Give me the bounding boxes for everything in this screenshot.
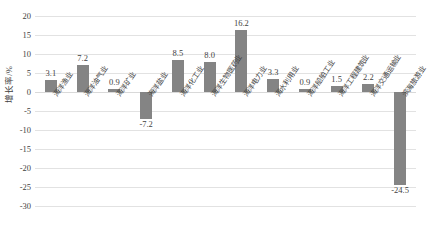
y-axis-tick-label: -30: [20, 202, 31, 211]
y-axis-tick-label: -15: [20, 145, 31, 154]
y-axis-tick-label: -5: [24, 107, 31, 116]
bar-slot: -7.2: [130, 16, 162, 206]
y-axis-tick-label: -20: [20, 164, 31, 173]
bar-value-label: -7.2: [139, 120, 152, 129]
bar-value-label: -24.5: [391, 186, 409, 195]
bar-slot: 7.2: [67, 16, 99, 206]
bar[interactable]: [394, 92, 406, 185]
bar-value-label: 2.2: [363, 73, 374, 82]
bar-slot: 0.9: [99, 16, 131, 206]
bar-slot: 3.1: [35, 16, 67, 206]
y-axis-title-text: 增长率/%: [5, 40, 14, 130]
bar-value-label: 0.9: [300, 78, 311, 87]
bar-slot: -24.5: [384, 16, 416, 206]
plot-area: 20151050-5-10-15-20-25-30 3.17.20.9-7.28…: [35, 16, 416, 206]
gridline: [35, 206, 416, 207]
y-axis-tick-label: -25: [20, 183, 31, 192]
y-axis-tick-label: 20: [23, 12, 32, 21]
bar-value-label: 7.2: [77, 54, 88, 63]
bar-value-label: 16.2: [234, 19, 249, 28]
y-axis-tick-label: 10: [23, 50, 32, 59]
bar-value-label: 3.1: [46, 69, 57, 78]
y-axis-tick-label: 0: [27, 88, 31, 97]
bar-slot: 3.3: [257, 16, 289, 206]
bar-slot: 16.2: [226, 16, 258, 206]
y-axis-tick-label: 15: [23, 31, 32, 40]
bar-slot: 8.5: [162, 16, 194, 206]
bar-value-label: 1.5: [331, 75, 342, 84]
y-axis-tick-label: 5: [27, 69, 31, 78]
bar-slot: 0.9: [289, 16, 321, 206]
bar-slot: 2.2: [353, 16, 385, 206]
bar-value-label: 8.5: [173, 49, 184, 58]
y-axis-title: 增长率/%: [0, 0, 16, 230]
bar-slot: 8.0: [194, 16, 226, 206]
bar-slot: 1.5: [321, 16, 353, 206]
bar-value-label: 8.0: [204, 51, 215, 60]
y-axis-tick-label: -10: [20, 126, 31, 135]
bar-value-label: 3.3: [268, 68, 279, 77]
